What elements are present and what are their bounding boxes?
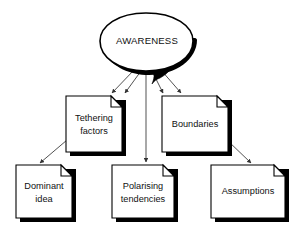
node-label-line1: Boundaries xyxy=(172,119,219,129)
node-label-line2: tendencies xyxy=(121,194,166,204)
edge-awareness-to-tethering-factors xyxy=(112,70,134,93)
node-awareness-bubble[interactable]: AWARENESS xyxy=(100,13,197,84)
node-label-line1: Tethering xyxy=(75,113,113,123)
concept-map-diagram: Tethering factors Boundaries Dominant id… xyxy=(0,0,302,243)
edge-tethering-factors-to-dominant-idea xyxy=(40,140,67,163)
edge-awareness-to-tethering-factors-alt xyxy=(125,71,141,93)
node-dominant-idea[interactable]: Dominant idea xyxy=(16,165,76,222)
bubble-label: AWARENESS xyxy=(116,35,178,46)
diagram-canvas: Tethering factors Boundaries Dominant id… xyxy=(0,0,302,243)
node-label-line1: Dominant xyxy=(24,181,64,191)
node-label-line1: Assumptions xyxy=(222,186,275,196)
node-polarising-tendencies[interactable]: Polarising tendencies xyxy=(112,165,178,222)
node-assumptions[interactable]: Assumptions xyxy=(211,165,289,222)
node-label-line2: factors xyxy=(80,126,108,136)
node-boundaries[interactable]: Boundaries xyxy=(162,96,232,156)
node-label-line1: Polarising xyxy=(123,181,163,191)
node-tethering-factors[interactable]: Tethering factors xyxy=(66,96,126,156)
node-label-line2: idea xyxy=(35,194,53,204)
